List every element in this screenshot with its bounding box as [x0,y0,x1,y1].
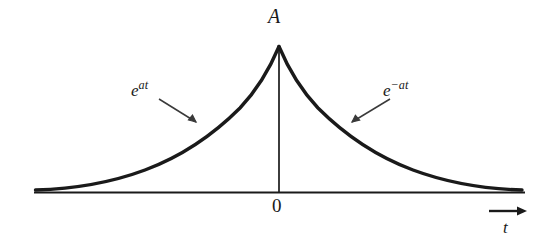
right-branch-label-base: e [383,81,391,100]
right-branch-label-exponent: −at [391,78,409,92]
left-branch-label: eat [131,79,148,99]
exponential-pulse-figure: A eat e−at 0 t [0,0,546,242]
curve-right-branch [279,47,522,191]
right-branch-label: e−at [383,79,408,99]
t-axis-direction-arrow-icon [489,206,527,215]
t-axis-label: t [503,219,508,236]
right-annotation-arrow [352,99,390,122]
left-annotation-arrow [159,99,196,122]
left-branch-label-base: e [131,81,139,100]
curve-left-branch [36,47,280,191]
left-branch-label-exponent: at [139,78,149,92]
peak-amplitude-label: A [268,6,280,26]
origin-tick-label: 0 [272,196,282,215]
